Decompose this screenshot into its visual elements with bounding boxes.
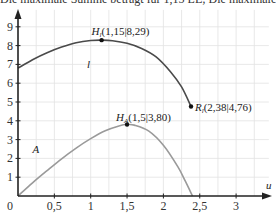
y-tick-label: 9 bbox=[7, 20, 13, 34]
series-label-l: l bbox=[87, 58, 90, 70]
y-tick-label: 7 bbox=[7, 57, 13, 71]
x-tick-label: 0,5 bbox=[47, 199, 62, 213]
series-line-l bbox=[18, 40, 191, 106]
y-tick-label: 1 bbox=[7, 170, 13, 184]
origin-label: 0 bbox=[7, 199, 13, 213]
point-label-H_A: HA(1,5|3,80) bbox=[115, 111, 171, 125]
chart: lA 0,511,522,53123456789 0 u Hl(1,15|8,2… bbox=[0, 0, 276, 214]
series-label-A: A bbox=[32, 143, 40, 155]
x-tick-label: 2 bbox=[160, 199, 166, 213]
x-axis-arrow-icon bbox=[262, 193, 272, 200]
y-tick-label: 3 bbox=[7, 133, 13, 147]
x-tick-label: 1,5 bbox=[120, 199, 135, 213]
x-tick-label: 1 bbox=[88, 199, 94, 213]
y-tick-label: 8 bbox=[7, 39, 13, 53]
point-label-H_l: Hl(1,15|8,29) bbox=[91, 25, 150, 39]
y-tick-label: 6 bbox=[7, 76, 13, 90]
y-tick-label: 2 bbox=[7, 151, 13, 165]
y-tick-label: 5 bbox=[7, 95, 13, 109]
x-tick-label: 2,5 bbox=[192, 199, 207, 213]
x-tick-label: 3 bbox=[233, 199, 239, 213]
y-axis-arrow-icon bbox=[15, 9, 22, 19]
series-line-A bbox=[18, 124, 192, 196]
y-tick-label: 4 bbox=[7, 114, 13, 128]
x-axis-label: u bbox=[266, 179, 272, 191]
point-R_l bbox=[189, 104, 193, 108]
point-label-R_l: Rl(2,38|4,76) bbox=[194, 101, 252, 115]
